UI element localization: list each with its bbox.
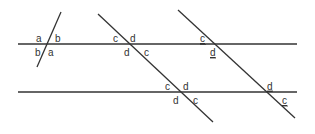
angle-label: d — [173, 95, 179, 106]
angle-label: c — [144, 47, 149, 58]
angle-label: a — [36, 33, 42, 44]
angle-label: d — [267, 81, 273, 92]
angle-label: c — [113, 33, 118, 44]
angle-label: d — [210, 47, 216, 58]
angle-label: c — [193, 95, 198, 106]
angle-label: a — [48, 47, 54, 58]
angle-label: b — [35, 47, 41, 58]
angle-label: c — [200, 33, 205, 44]
angle-label: c — [165, 81, 170, 92]
angle-label: d — [130, 33, 136, 44]
angle-diagram: a b b a c d d c c d d c c d d c — [0, 0, 315, 134]
angle-label: d — [124, 47, 130, 58]
angle-label: b — [55, 33, 61, 44]
angle-label: d — [183, 81, 189, 92]
angle-label: c — [282, 95, 287, 106]
